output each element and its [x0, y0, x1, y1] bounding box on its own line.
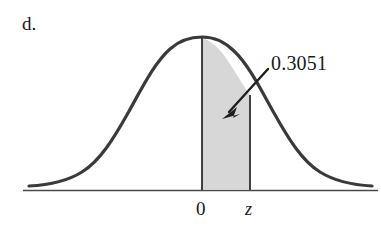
normal-curve-svg — [0, 0, 381, 242]
axis-tick-label-zero: 0 — [196, 199, 206, 218]
normal-distribution-figure: d. 0.3051 0 z — [0, 0, 381, 242]
part-label: d. — [22, 14, 36, 33]
area-value-label: 0.3051 — [271, 53, 327, 73]
axis-tick-label-z: z — [245, 200, 252, 218]
